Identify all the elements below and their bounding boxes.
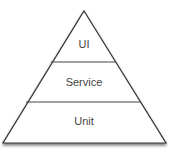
layer-label-service: Service: [66, 76, 103, 88]
layer-label-unit: Unit: [74, 115, 94, 127]
test-pyramid-diagram: UI Service Unit: [0, 0, 172, 158]
layer-label-ui: UI: [79, 38, 90, 50]
